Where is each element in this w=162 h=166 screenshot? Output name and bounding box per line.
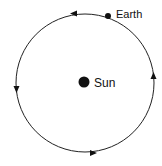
sun-icon (79, 77, 90, 88)
arrow-left-icon (14, 86, 20, 93)
earth-icon (105, 13, 111, 19)
earth-label: Earth (116, 8, 142, 20)
arrow-right-icon (151, 72, 157, 79)
orbit-diagram: Sun Earth (0, 0, 162, 166)
sun-label: Sun (94, 76, 115, 90)
